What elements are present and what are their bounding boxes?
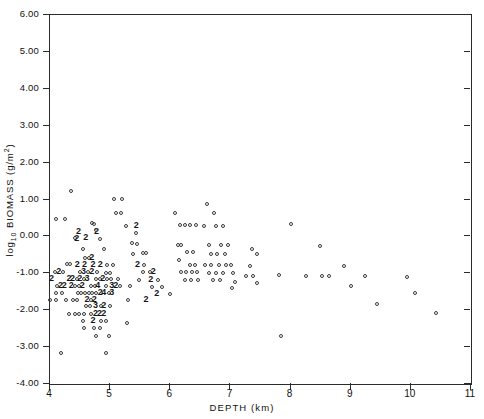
data-point bbox=[231, 271, 235, 275]
data-point-count-label: 3 bbox=[84, 274, 89, 283]
data-point bbox=[349, 284, 353, 288]
y-axis-tick bbox=[43, 346, 49, 347]
data-point bbox=[209, 263, 213, 267]
data-point bbox=[190, 270, 194, 274]
data-point bbox=[177, 258, 181, 262]
data-point bbox=[108, 271, 112, 275]
y-axis-tick bbox=[43, 309, 49, 310]
y-axis-tick-label: 3.00 bbox=[20, 119, 39, 130]
data-point-count-label: 4 bbox=[101, 288, 106, 297]
data-point bbox=[81, 319, 85, 323]
y-axis-tick-label: 0.00 bbox=[20, 229, 39, 240]
data-point bbox=[277, 273, 281, 277]
data-point bbox=[60, 291, 64, 295]
data-point bbox=[98, 237, 102, 241]
data-point bbox=[188, 223, 192, 227]
data-point bbox=[279, 334, 283, 338]
data-point bbox=[375, 302, 379, 306]
plot-area: 2222222222322222322222432243222322222222… bbox=[49, 14, 470, 383]
data-point-count-label: 2 bbox=[74, 234, 79, 243]
data-point bbox=[318, 244, 322, 248]
data-point bbox=[119, 211, 123, 215]
data-point-count-label: 2 bbox=[91, 316, 96, 325]
y-axis-tick-label: 4.00 bbox=[20, 82, 39, 93]
x-axis-tick-label: 6 bbox=[157, 388, 181, 399]
data-point bbox=[205, 202, 209, 206]
data-point bbox=[207, 271, 211, 275]
data-point bbox=[137, 278, 141, 282]
scatter-plot-figure: 2222222222322222322222432243222322222222… bbox=[0, 0, 484, 419]
x-axis-title: DEPTH (km) bbox=[0, 402, 484, 413]
y-axis-tick-right bbox=[464, 346, 470, 347]
data-point bbox=[251, 274, 255, 278]
y-axis-title-biomass: BIOMASS (g/m bbox=[4, 152, 15, 231]
data-point bbox=[112, 197, 116, 201]
data-point bbox=[218, 278, 222, 282]
data-point bbox=[185, 250, 189, 254]
data-point-count-label: 2 bbox=[89, 267, 94, 276]
data-point bbox=[327, 274, 331, 278]
y-axis-tick bbox=[43, 235, 49, 236]
data-point bbox=[196, 278, 200, 282]
data-point bbox=[434, 311, 438, 315]
data-point bbox=[81, 247, 85, 251]
data-point bbox=[320, 274, 324, 278]
data-point bbox=[128, 284, 132, 288]
data-point bbox=[108, 304, 112, 308]
data-point bbox=[244, 274, 248, 278]
y-axis-tick-right bbox=[464, 125, 470, 126]
data-point-count-label: 2 bbox=[49, 274, 54, 283]
data-point bbox=[54, 298, 58, 302]
y-axis-title-base: 10 bbox=[10, 232, 17, 242]
x-axis-tick-label: 7 bbox=[217, 388, 241, 399]
data-point bbox=[69, 189, 73, 193]
y-axis-tick-label: -1.00 bbox=[16, 266, 39, 277]
data-point bbox=[141, 270, 145, 274]
data-point bbox=[221, 271, 225, 275]
data-point bbox=[233, 280, 237, 284]
data-point bbox=[178, 223, 182, 227]
y-axis-tick-label: 6.00 bbox=[20, 8, 39, 19]
data-point bbox=[144, 251, 148, 255]
data-point-count-label: 2 bbox=[80, 281, 85, 290]
data-point bbox=[179, 270, 183, 274]
data-point bbox=[160, 285, 164, 289]
data-point bbox=[104, 319, 108, 323]
y-axis-title-log: log bbox=[4, 241, 15, 256]
data-point bbox=[107, 334, 111, 338]
data-point bbox=[75, 298, 79, 302]
data-point bbox=[188, 263, 192, 267]
data-point bbox=[111, 263, 115, 267]
data-point bbox=[194, 223, 198, 227]
data-point bbox=[223, 252, 227, 256]
y-axis-tick bbox=[43, 199, 49, 200]
data-point-count-label: 3 bbox=[109, 288, 114, 297]
data-point bbox=[212, 211, 216, 215]
data-point bbox=[289, 222, 293, 226]
y-axis-tick bbox=[43, 125, 49, 126]
data-point bbox=[156, 278, 160, 282]
y-axis-tick bbox=[43, 51, 49, 52]
data-point bbox=[413, 291, 417, 295]
y-axis-tick-label: -4.00 bbox=[16, 377, 39, 388]
data-point bbox=[135, 242, 139, 246]
data-point bbox=[179, 243, 183, 247]
data-point bbox=[173, 211, 177, 215]
data-point-count-label: 2 bbox=[135, 260, 140, 269]
data-point bbox=[202, 224, 206, 228]
data-point bbox=[215, 252, 219, 256]
y-axis-title-paren: ) bbox=[4, 143, 15, 147]
data-point bbox=[131, 252, 135, 256]
y-axis-tick-right bbox=[464, 199, 470, 200]
data-point bbox=[342, 264, 346, 268]
y-axis-tick bbox=[43, 88, 49, 89]
y-axis-tick bbox=[43, 162, 49, 163]
y-axis-tick-right bbox=[464, 51, 470, 52]
data-point bbox=[67, 312, 71, 316]
data-point bbox=[214, 224, 218, 228]
data-point bbox=[189, 278, 193, 282]
data-point bbox=[105, 263, 109, 267]
y-axis-tick-label: -3.00 bbox=[16, 340, 39, 351]
data-point bbox=[184, 270, 188, 274]
data-point-count-label: 2 bbox=[148, 275, 153, 284]
